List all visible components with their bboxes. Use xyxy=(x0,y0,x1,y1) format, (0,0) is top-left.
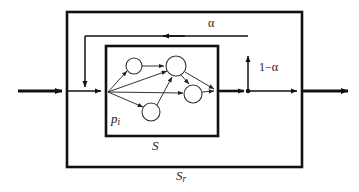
label-s-r-subscript: r xyxy=(183,174,187,184)
node-bottom xyxy=(142,103,160,121)
edge-source-to-node-right xyxy=(108,92,183,93)
node-top-left xyxy=(126,58,142,74)
diagram-canvas: α 1−α pi S Sr xyxy=(0,0,359,192)
label-alpha: α xyxy=(208,17,214,29)
label-one-minus-alpha: 1−α xyxy=(259,61,278,73)
edge-top-middle-to-node-right xyxy=(181,75,189,84)
label-s-r: Sr xyxy=(176,169,186,185)
label-p-i: pi xyxy=(111,112,120,128)
label-p-i-subscript: i xyxy=(118,117,121,127)
label-s: S xyxy=(152,139,159,152)
block-diagram-svg xyxy=(0,0,359,192)
edge-node-right-to-sink xyxy=(202,91,214,92)
edge-bottom-to-top-middle xyxy=(157,77,172,105)
node-right xyxy=(184,85,202,103)
split-junction-dot xyxy=(246,89,251,94)
edge-source-to-bottom xyxy=(108,92,143,107)
node-top-middle xyxy=(166,56,186,76)
